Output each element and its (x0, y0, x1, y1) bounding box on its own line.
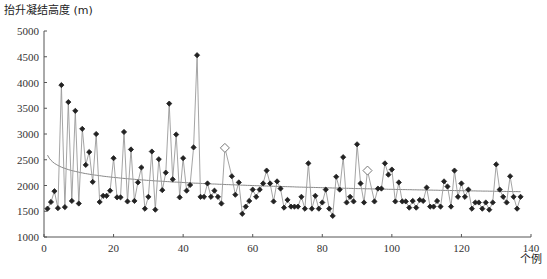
data-point-marker (271, 199, 276, 204)
data-point-marker (153, 207, 158, 212)
data-point-marker (243, 204, 248, 209)
y-tick-label: 3500 (17, 102, 40, 114)
data-point-marker (459, 181, 464, 186)
data-point-marker (295, 204, 300, 209)
data-point-marker (511, 194, 516, 199)
data-point-marker (69, 198, 74, 203)
data-point-marker (167, 101, 172, 106)
data-point-marker (508, 174, 513, 179)
data-point-marker (393, 199, 398, 204)
data-point-marker (396, 180, 401, 185)
data-point-marker (445, 184, 450, 189)
data-point-marker (268, 181, 273, 186)
data-point-marker (358, 181, 363, 186)
y-tick-label: 4000 (17, 77, 40, 89)
data-point-marker (490, 200, 495, 205)
data-point-marker (403, 199, 408, 204)
data-point-marker (382, 161, 387, 166)
x-axis-title: 个例 (520, 252, 542, 266)
data-point-marker (219, 201, 224, 206)
data-point-marker (212, 188, 217, 193)
y-axis: 100015002000250030003500400045005000 (17, 25, 47, 243)
data-point-marker (121, 129, 126, 134)
data-point-marker (229, 174, 234, 179)
data-point-marker (434, 198, 439, 203)
data-point-marker (504, 200, 509, 205)
data-point-marker (62, 205, 67, 210)
data-point-marker (274, 179, 279, 184)
data-point-marker (181, 156, 186, 161)
data-point-marker (407, 205, 412, 210)
open-diamond-marker (220, 143, 229, 152)
data-point-marker (372, 199, 377, 204)
data-point-marker (327, 206, 332, 211)
data-point-marker (174, 132, 179, 137)
data-point-marker (163, 170, 168, 175)
data-point-marker (344, 200, 349, 205)
lcl-height-chart: 抬升凝结高度 (m) 10001500200025003000350040004… (0, 0, 547, 279)
y-tick-label: 3000 (17, 128, 40, 140)
data-point-marker (87, 149, 92, 154)
data-point-marker (389, 167, 394, 172)
data-point-marker (494, 162, 499, 167)
data-point-marker (73, 108, 78, 113)
data-point-marker (156, 157, 161, 162)
data-point-marker (111, 156, 116, 161)
x-tick-label: 120 (453, 242, 470, 254)
data-point-marker (487, 207, 492, 212)
y-axis-title: 抬升凝结高度 (m) (4, 3, 93, 17)
data-point-marker (261, 181, 266, 186)
data-point-marker (146, 194, 151, 199)
data-point-marker (194, 53, 199, 58)
data-point-marker (441, 179, 446, 184)
x-tick-label: 0 (41, 242, 47, 254)
x-tick-label: 80 (317, 242, 329, 254)
data-point-marker (250, 187, 255, 192)
data-point-marker (208, 194, 213, 199)
data-point-marker (247, 198, 252, 203)
data-point-marker (264, 168, 269, 173)
data-point-marker (139, 165, 144, 170)
data-point-marker (257, 187, 262, 192)
data-point-marker (80, 126, 85, 131)
y-tick-label: 1000 (17, 231, 40, 243)
data-point-marker (76, 201, 81, 206)
data-point-marker (452, 168, 457, 173)
data-point-marker (215, 194, 220, 199)
x-tick-label: 100 (384, 242, 401, 254)
data-point-marker (501, 194, 506, 199)
y-tick-label: 5000 (17, 25, 40, 37)
data-point-marker (514, 206, 519, 211)
data-point-marker (354, 142, 359, 147)
data-point-marker (48, 199, 53, 204)
data-point-marker (424, 185, 429, 190)
data-point-marker (52, 189, 57, 194)
data-point-marker (316, 206, 321, 211)
y-tick-label: 4500 (17, 51, 40, 63)
data-point-marker (309, 206, 314, 211)
data-point-marker (135, 180, 140, 185)
data-point-marker (299, 194, 304, 199)
data-point-marker (177, 195, 182, 200)
data-point-marker (518, 194, 523, 199)
data-point-marker (205, 181, 210, 186)
data-point-marker (184, 188, 189, 193)
data-point-marker (285, 197, 290, 202)
y-tick-label: 1500 (17, 205, 40, 217)
data-point-marker (149, 149, 154, 154)
x-axis: 020406080100120140 (41, 234, 540, 254)
data-point-marker (83, 162, 88, 167)
data-point-marker (240, 211, 245, 216)
x-tick-label: 60 (247, 242, 259, 254)
data-point-marker (313, 193, 318, 198)
data-point-marker (320, 200, 325, 205)
data-point-marker (483, 200, 488, 205)
data-point-marker (233, 192, 238, 197)
data-point-marker (55, 206, 60, 211)
data-point-marker (125, 199, 130, 204)
data-point-marker (170, 177, 175, 182)
data-point-marker (334, 174, 339, 179)
data-point-marker (45, 206, 50, 211)
data-point-marker (66, 99, 71, 104)
data-point-marker (480, 206, 485, 211)
